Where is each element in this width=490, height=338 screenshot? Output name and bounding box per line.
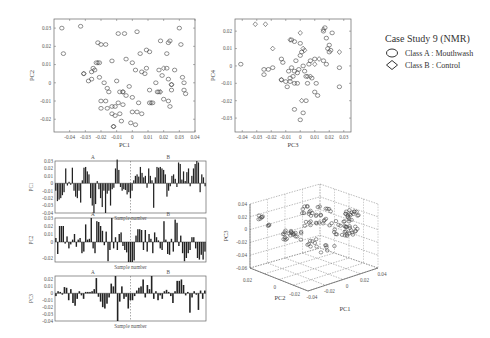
bar	[130, 242, 131, 262]
x-tick-label: -0.03	[80, 134, 91, 140]
bar	[115, 237, 116, 242]
bar	[156, 237, 157, 242]
y-tick-label: -0.03	[42, 311, 53, 317]
scatter-pc1-pc2: -0.04-0.03-0.02-0.0100.010.020.030.04-0.…	[28, 19, 200, 148]
bar	[113, 286, 115, 293]
circle-marker	[286, 69, 290, 73]
bar	[204, 183, 205, 186]
y-tick-label: 0	[229, 63, 232, 69]
y-axis-label: PC2	[28, 70, 35, 81]
bar	[145, 230, 146, 242]
y-tick-label: -0.03	[221, 115, 232, 121]
circle-marker	[105, 106, 109, 110]
circle-marker	[337, 85, 341, 89]
y-tick-label: 0.01	[42, 61, 51, 67]
bar	[92, 183, 93, 205]
y-tick-label: 0	[48, 80, 51, 86]
bar	[142, 279, 144, 293]
bar	[170, 293, 172, 296]
bar	[144, 293, 146, 297]
x-axis-label: Sample number	[114, 323, 147, 329]
bar	[94, 242, 95, 253]
bar	[132, 293, 134, 300]
circle-marker	[344, 210, 348, 213]
bar	[132, 242, 133, 262]
bar	[118, 170, 119, 183]
circle-marker	[325, 249, 329, 252]
group-label-b: B	[167, 211, 171, 217]
bar	[131, 183, 132, 190]
bar	[201, 174, 202, 183]
z-tick-label: -0.06	[236, 265, 247, 271]
circle-marker	[127, 85, 131, 89]
z-axis-label: PC3	[222, 230, 229, 241]
bar	[153, 293, 155, 299]
bar	[98, 183, 99, 189]
bar	[181, 279, 183, 293]
bar	[113, 242, 114, 248]
y-tick-label: -0.04	[42, 318, 53, 324]
bar	[149, 289, 151, 293]
y-axis-label: PC2	[28, 235, 34, 244]
circle-marker	[151, 101, 155, 105]
circle-marker	[130, 95, 134, 99]
circle-marker	[97, 75, 101, 79]
bar	[133, 180, 134, 183]
bar	[57, 242, 58, 254]
bar	[59, 226, 60, 242]
bar	[158, 240, 159, 242]
x-axis-label: PC3	[287, 141, 298, 148]
circle-marker	[118, 112, 122, 116]
bar	[135, 236, 136, 242]
bar	[58, 183, 59, 199]
circle-marker	[168, 105, 172, 109]
bar	[95, 183, 96, 204]
bar	[139, 229, 140, 242]
bar	[122, 183, 123, 190]
bar	[146, 242, 147, 252]
bar	[143, 242, 144, 250]
bar	[66, 236, 67, 242]
x-tick-label: 0.04	[190, 134, 199, 140]
bar	[202, 293, 204, 299]
bar	[66, 288, 68, 294]
circle-marker	[165, 52, 169, 56]
bar	[157, 293, 159, 300]
bar	[103, 183, 104, 190]
bar	[117, 242, 118, 250]
bar	[196, 161, 197, 183]
circle-marker	[177, 26, 181, 30]
x-tick-label: 0	[131, 134, 134, 140]
circle-marker	[321, 59, 325, 63]
circle-marker	[289, 66, 293, 70]
circle-marker	[281, 61, 285, 65]
bar	[138, 177, 139, 184]
circle-marker	[116, 101, 120, 105]
bar	[195, 164, 196, 183]
bar	[204, 291, 206, 294]
y-tick-label: 0.02	[44, 276, 53, 282]
bar	[83, 242, 84, 252]
bar	[108, 183, 109, 190]
y-tick-label: 0.02	[243, 277, 252, 283]
bar	[166, 290, 168, 293]
bar	[202, 242, 203, 260]
bar	[171, 239, 172, 242]
circle-marker	[301, 64, 305, 68]
bar	[147, 285, 149, 293]
grid-line	[303, 253, 361, 274]
bar	[155, 177, 156, 183]
bar	[191, 176, 192, 183]
circle-marker	[157, 68, 161, 72]
bar	[125, 183, 126, 190]
bar	[72, 293, 74, 303]
x-tick-label: -0.04	[307, 294, 318, 300]
bar	[197, 242, 198, 258]
bar	[67, 183, 68, 185]
bar	[122, 242, 123, 246]
circle-marker	[337, 66, 341, 70]
bar	[190, 183, 191, 186]
diamond-marker	[298, 31, 302, 36]
grid-line	[250, 248, 378, 268]
circle-marker	[172, 68, 176, 72]
